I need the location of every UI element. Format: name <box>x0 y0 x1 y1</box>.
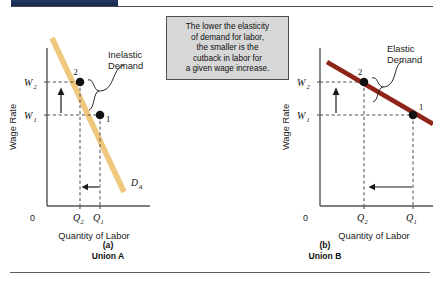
axis-ticks-a <box>44 82 100 209</box>
y-tick-w2-sub-b: 2 <box>307 83 311 90</box>
explanatory-callout-box: The lower the elasticity of demand for l… <box>166 16 289 80</box>
x-tick-q2-sub-b: 2 <box>365 218 369 225</box>
x-tick-q2-sub-a: 2 <box>81 218 85 225</box>
point-2-label-b: 2 <box>358 67 362 77</box>
wage-increase-arrow-a <box>58 88 65 114</box>
curve-label-leader-a <box>88 65 124 110</box>
point-2-marker-a <box>76 78 85 87</box>
panel-caption-letter-a: (a) <box>0 240 216 251</box>
labor-cutback-arrow-a <box>82 184 100 190</box>
point-1-marker-b <box>409 111 418 120</box>
y-axis-title-a: Wage Rate <box>8 104 18 150</box>
point-1-marker-a <box>96 111 105 120</box>
inelastic-demand-label-line2-a: Demand <box>108 61 143 71</box>
x-tick-labels-b: Q 2 Q 1 <box>357 212 417 225</box>
y-tick-w1-sub-a: 1 <box>34 116 37 123</box>
y-tick-w2-sub-a: 2 <box>34 83 38 90</box>
y-tick-w1-sub-b: 1 <box>307 116 310 123</box>
panel-caption-name-a: Union A <box>0 251 216 262</box>
panel-caption-letter-b: (b) <box>217 240 433 251</box>
point-2-marker-b <box>360 78 369 87</box>
callout-line-2: of demand for labor, <box>172 33 283 44</box>
bottom-horizontal-rule <box>10 272 430 273</box>
y-tick-w2-label-a: W <box>24 77 34 88</box>
point-1-label-b: 1 <box>419 102 423 112</box>
axis-ticks-b <box>317 82 413 209</box>
y-tick-w1-label-a: W <box>24 110 34 121</box>
top-decorative-band <box>0 0 433 9</box>
inelastic-demand-label-line1-a: Inelastic <box>108 50 142 60</box>
callout-line-1: The lower the elasticity <box>172 22 283 33</box>
panel-caption-b: (b) Union B <box>217 240 433 262</box>
top-horizontal-rule <box>11 6 433 7</box>
x-tick-q1-sub-b: 1 <box>414 218 417 225</box>
panel-caption-a: (a) Union A <box>0 240 216 262</box>
y-tick-w1-label-b: W <box>297 110 307 121</box>
demand-curve-name-a: D <box>130 177 138 188</box>
labor-cutback-arrow-b <box>369 184 413 190</box>
elastic-demand-label-line1-b: Elastic <box>387 44 415 54</box>
callout-line-5: a given wage increase. <box>172 64 283 75</box>
x-tick-labels-a: Q 2 Q 1 <box>73 212 104 225</box>
callout-line-4: cutback in labor for <box>172 54 283 65</box>
axes-group-b <box>320 48 433 206</box>
wage-increase-arrow-b <box>333 88 340 114</box>
x-tick-q1-sub-a: 1 <box>101 218 104 225</box>
point-1-label-a: 1 <box>106 114 110 124</box>
point-2-label-a: 2 <box>74 67 78 77</box>
origin-label-a: 0 <box>30 213 35 223</box>
y-tick-labels-a: W 2 W 1 <box>24 77 38 123</box>
y-tick-w2-label-b: W <box>297 77 307 88</box>
panel-caption-name-b: Union B <box>217 251 433 262</box>
elastic-demand-label-line2-b: Demand <box>387 55 422 65</box>
y-tick-labels-b: W 2 W 1 <box>297 77 311 123</box>
callout-line-3: the smaller is the <box>172 43 283 54</box>
y-axis-title-b: Wage Rate <box>281 104 291 150</box>
demand-curve-name-sub-a: A <box>138 183 144 190</box>
origin-label-b: 0 <box>303 213 308 223</box>
